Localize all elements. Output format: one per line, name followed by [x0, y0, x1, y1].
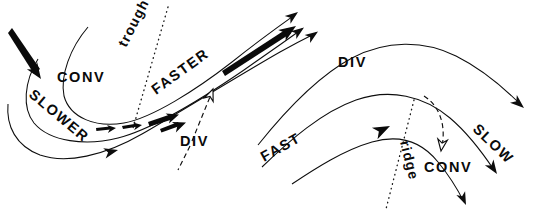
figure-canvas: CONV SLOWER trough FASTER DIV	[0, 0, 555, 209]
label-div-ridge: DIV	[338, 54, 367, 70]
trough-inflow-speed-arrow	[8, 28, 46, 82]
speed-arrow-small	[96, 124, 116, 133]
label-conv-trough: CONV	[57, 69, 105, 85]
label-conv-ridge: CONV	[424, 159, 472, 175]
label-fast: FAST	[258, 130, 304, 165]
label-faster: FASTER	[148, 45, 211, 97]
trough-streamline-inner	[8, 28, 321, 159]
ridge-conv-vector	[424, 96, 447, 152]
open-arrowhead-icon	[436, 139, 447, 152]
arrowhead-icon	[285, 8, 301, 23]
arrowhead-icon	[305, 28, 321, 43]
label-slower: SLOWER	[26, 86, 92, 145]
label-trough-axis: trough	[114, 0, 152, 49]
arrowhead-icon	[291, 24, 307, 39]
arrowhead-icon	[456, 191, 470, 207]
trough-outflow-speed-arrow	[222, 21, 300, 76]
label-div-trough: DIV	[180, 133, 209, 149]
streamline-diagram: CONV SLOWER trough FASTER DIV	[0, 0, 555, 209]
arrowhead-icon	[485, 159, 501, 176]
arrowhead-icon	[372, 120, 393, 139]
ridge-panel: DIV FAST ridge CONV SLOW	[258, 44, 528, 209]
